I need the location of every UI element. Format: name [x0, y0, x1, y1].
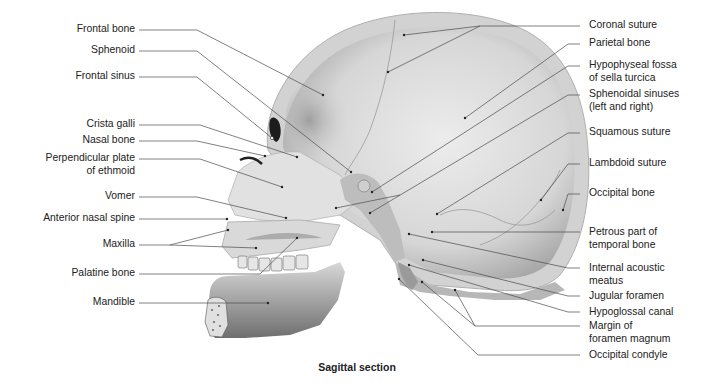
label-crista-galli: Crista galli	[86, 118, 135, 131]
label-sphenoidal-sinuses: Sphenoidal sinuses (left and right)	[589, 88, 679, 113]
label-perpendicular-plate: Perpendicular plate of ethmoid	[45, 152, 135, 177]
label-occipital-bone: Occipital bone	[589, 187, 655, 200]
label-anterior-nasal-spine: Anterior nasal spine	[43, 212, 135, 225]
label-squamous-suture: Squamous suture	[589, 126, 670, 139]
label-parietal-bone: Parietal bone	[589, 37, 650, 50]
label-mandible: Mandible	[93, 296, 135, 309]
leader-nasal-bone	[139, 141, 265, 156]
label-coronal-suture: Coronal suture	[589, 19, 657, 32]
label-petrous-part: Petrous part of temporal bone	[589, 226, 657, 251]
label-hypophyseal-fossa: Hypophyseal fossa of sella turcica	[589, 59, 677, 84]
label-internal-acoustic-meatus: Internal acoustic meatus	[589, 262, 665, 287]
label-nasal-bone: Nasal bone	[82, 134, 135, 147]
label-frontal-bone: Frontal bone	[77, 23, 135, 36]
label-occipital-condyle: Occipital condyle	[589, 349, 668, 362]
label-lambdoid-suture: Lambdoid suture	[589, 157, 666, 170]
label-frontal-sinus: Frontal sinus	[76, 70, 135, 83]
leader-maxilla-a	[139, 230, 228, 245]
upper-teeth	[238, 255, 308, 271]
label-palatine-bone: Palatine bone	[71, 267, 135, 280]
label-vomer: Vomer	[105, 190, 135, 203]
label-margin-foramen-magnum: Margin of foramen magnum	[589, 320, 670, 345]
label-jugular-foramen: Jugular foramen	[589, 290, 664, 303]
label-hypoglossal-canal: Hypoglossal canal	[589, 306, 673, 319]
diagram-stage: Frontal bone Sphenoid Frontal sinus Cris…	[0, 0, 714, 387]
figure-caption: Sagittal section	[0, 361, 714, 373]
label-maxilla: Maxilla	[103, 238, 135, 251]
leader-frontal-sinus	[139, 77, 272, 138]
label-sphenoid: Sphenoid	[91, 44, 135, 57]
